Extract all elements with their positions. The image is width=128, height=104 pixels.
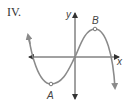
cubic-graph: A B x y [0, 0, 128, 104]
y-axis-label: y [65, 9, 72, 20]
point-b [93, 27, 97, 31]
cubic-curve [29, 29, 115, 88]
point-a [49, 82, 53, 86]
x-axis-label: x [116, 56, 123, 67]
curve-left-arrow-icon [28, 35, 30, 44]
point-b-label: B [92, 15, 99, 26]
point-a-label: A [46, 90, 54, 101]
